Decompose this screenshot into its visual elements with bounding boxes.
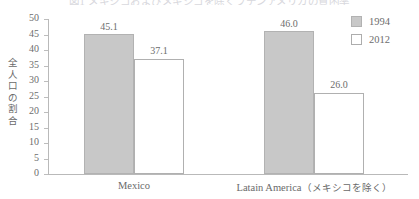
y-tick-45: 45 xyxy=(2,35,48,36)
x-axis-label-latain-america: Latain America（メキシコを除く） xyxy=(236,180,391,194)
y-axis-title: 全 人 口 の 割 合 xyxy=(6,57,19,127)
y-tick-label: 15 xyxy=(29,121,39,132)
y-tick-label: 20 xyxy=(29,105,39,116)
y-tick-mark xyxy=(44,19,48,20)
y-tick-30: 30 xyxy=(2,81,48,82)
legend-swatch-icon xyxy=(351,16,362,27)
legend-label: 2012 xyxy=(369,34,390,45)
x-axis-line xyxy=(48,174,408,175)
y-tick-label: 50 xyxy=(29,12,39,23)
y-tick-mark xyxy=(44,50,48,51)
y-tick-50: 50 xyxy=(2,19,48,20)
bar-value-label: 45.1 xyxy=(100,21,118,32)
legend-label: 1994 xyxy=(369,16,390,27)
y-axis-title-char: 割 xyxy=(6,103,19,115)
y-tick-25: 25 xyxy=(2,97,48,98)
y-tick-mark xyxy=(44,112,48,113)
chart-title: 図1 メキシコおよびメキシコを除くラテンアメリカの貧困率 xyxy=(0,0,419,5)
y-tick-mark xyxy=(44,159,48,160)
y-tick-15: 15 xyxy=(2,128,48,129)
legend-item-2012[interactable]: 2012 xyxy=(351,32,413,47)
x-axis-label-jp-text: （メキシコを除く） xyxy=(302,182,392,193)
legend: 1994 2012 xyxy=(351,14,413,50)
y-tick-label: 5 xyxy=(34,152,39,163)
x-axis-label-latin-text: Latain America xyxy=(236,182,301,193)
y-axis-title-char: の xyxy=(6,92,19,104)
y-axis-title-char: 全 xyxy=(6,57,19,69)
y-tick-mark xyxy=(44,174,48,175)
bar-value-label: 37.1 xyxy=(150,45,168,56)
y-tick-mark xyxy=(44,128,48,129)
bar-value-label: 26.0 xyxy=(330,79,348,90)
bar-latain-america-1994[interactable]: 46.0 xyxy=(264,31,314,174)
y-tick-mark xyxy=(44,97,48,98)
y-tick-mark xyxy=(44,35,48,36)
y-tick-mark xyxy=(44,81,48,82)
y-tick-40: 40 xyxy=(2,50,48,51)
bar-latain-america-2012[interactable]: 26.0 xyxy=(314,93,364,174)
x-axis-label-latin-text: Mexico xyxy=(118,180,150,191)
y-tick-mark xyxy=(44,143,48,144)
y-tick-0: 0 xyxy=(2,174,48,175)
y-axis-title-char: 人 xyxy=(6,69,19,81)
y-axis-title-char: 合 xyxy=(6,115,19,127)
y-tick-label: 0 xyxy=(34,167,39,178)
y-tick-label: 10 xyxy=(29,136,39,147)
bar-value-label: 46.0 xyxy=(280,18,298,29)
y-tick-35: 35 xyxy=(2,66,48,67)
bar-mexico-1994[interactable]: 45.1 xyxy=(84,34,134,174)
y-tick-label: 30 xyxy=(29,74,39,85)
y-tick-label: 35 xyxy=(29,59,39,70)
y-tick-5: 5 xyxy=(2,159,48,160)
y-tick-mark xyxy=(44,66,48,67)
x-axis-label-mexico: Mexico xyxy=(118,180,150,191)
bar-mexico-2012[interactable]: 37.1 xyxy=(134,59,184,174)
y-axis-line xyxy=(48,19,49,175)
y-tick-label: 40 xyxy=(29,43,39,54)
y-tick-20: 20 xyxy=(2,112,48,113)
y-tick-label: 45 xyxy=(29,28,39,39)
legend-swatch-icon xyxy=(351,34,362,45)
y-tick-10: 10 xyxy=(2,143,48,144)
legend-item-1994[interactable]: 1994 xyxy=(351,14,413,29)
y-tick-label: 25 xyxy=(29,90,39,101)
